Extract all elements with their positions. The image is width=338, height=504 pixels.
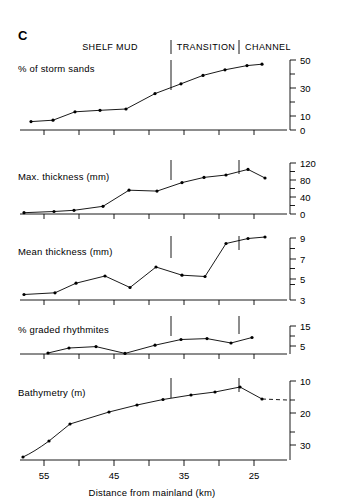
series-line-p5-dashed-tail	[262, 399, 287, 400]
y-tick-label: 10	[300, 111, 311, 122]
data-point	[263, 235, 266, 238]
data-point	[224, 173, 227, 176]
figure-letter: C	[18, 28, 28, 43]
y-tick-label: 40	[300, 192, 311, 203]
panel-bathymetry: Bathymetry (m) 10 20 30	[18, 376, 311, 467]
data-point	[245, 64, 248, 67]
data-point	[224, 242, 227, 245]
zone-header-channel: CHANNEL	[245, 42, 291, 52]
y-tick-label: 0	[300, 125, 305, 136]
figure-container: C SHELF MUD TRANSITION CHANNEL % of stor…	[0, 0, 338, 504]
data-point	[229, 341, 232, 344]
x-tick-label: 35	[179, 470, 190, 481]
data-point	[47, 439, 50, 442]
data-point	[154, 265, 157, 268]
data-point	[22, 211, 25, 214]
multi-panel-line-chart: C SHELF MUD TRANSITION CHANNEL % of stor…	[0, 0, 338, 504]
data-point	[201, 74, 204, 77]
panel-mean-thickness: Mean thickness (mm) 3 5 7 9	[18, 233, 305, 306]
y-tick-label: 5	[300, 274, 305, 285]
y-tick-label: 80	[300, 175, 311, 186]
data-point	[128, 286, 131, 289]
x-tick-label: 45	[109, 470, 120, 481]
data-point	[260, 63, 263, 66]
y-tick-label: 20	[300, 408, 311, 419]
panel-graded-rhythmites: % graded rhythmites 5 15	[18, 316, 311, 359]
data-point	[127, 189, 130, 192]
panel-max-thickness: Max. thickness (mm) 0 40 80 120	[18, 158, 316, 220]
zone-header-transition: TRANSITION	[177, 42, 236, 52]
series-line-p4	[48, 338, 252, 354]
data-point	[238, 385, 241, 388]
panel-label-mean-thickness: Mean thickness (mm)	[18, 246, 113, 257]
data-point	[46, 351, 49, 354]
data-point	[67, 346, 70, 349]
y-tick-label: 3	[300, 295, 305, 306]
data-point	[246, 168, 249, 171]
data-point	[68, 422, 71, 425]
data-point	[52, 210, 55, 213]
data-point	[189, 393, 192, 396]
panel-label-max-thickness: Max. thickness (mm)	[18, 171, 109, 182]
data-point	[155, 190, 158, 193]
data-point	[161, 398, 164, 401]
data-point	[153, 344, 156, 347]
data-point	[73, 110, 76, 113]
data-point	[22, 293, 25, 296]
y-tick-label: 9	[300, 233, 305, 244]
x-axis-title: Distance from mainland (km)	[89, 487, 216, 498]
panel-storm-sands: % of storm sands 0 10 30 50	[18, 55, 311, 136]
data-point	[98, 109, 101, 112]
y-tick-label: 10	[300, 376, 311, 387]
panel-label-graded-rhythmites: % graded rhythmites	[18, 324, 109, 335]
panel-label-storm-sands: % of storm sands	[18, 63, 95, 74]
y-tick-label: 120	[300, 158, 316, 169]
data-point	[179, 338, 182, 341]
data-point	[135, 403, 138, 406]
data-point	[124, 107, 127, 110]
data-point	[51, 119, 54, 122]
data-point	[107, 410, 110, 413]
data-point	[103, 274, 106, 277]
y-tick-label: 5	[300, 341, 305, 352]
y-tick-label: 50	[300, 55, 311, 66]
data-point	[202, 176, 205, 179]
data-point	[260, 397, 263, 400]
y-tick-label: 30	[300, 83, 311, 94]
data-point	[29, 120, 32, 123]
data-point	[213, 390, 216, 393]
series-markers-p4	[46, 336, 253, 355]
x-axis-labels: 55 45 35 25	[39, 470, 260, 481]
data-point	[223, 68, 226, 71]
data-point	[263, 176, 266, 179]
data-point	[101, 205, 104, 208]
zone-header-shelf-mud: SHELF MUD	[82, 42, 138, 52]
data-point	[180, 181, 183, 184]
data-point	[153, 92, 156, 95]
x-tick-label: 25	[249, 470, 260, 481]
y-tick-label: 0	[300, 209, 305, 220]
data-point	[94, 345, 97, 348]
data-point	[205, 337, 208, 340]
y-tick-label: 15	[300, 321, 311, 332]
x-tick-label: 55	[39, 470, 50, 481]
data-point	[246, 237, 249, 240]
data-point	[21, 455, 24, 458]
data-point	[250, 336, 253, 339]
y-tick-label: 30	[300, 440, 311, 451]
panel-label-bathymetry: Bathymetry (m)	[18, 387, 86, 398]
data-point	[74, 282, 77, 285]
data-point	[53, 291, 56, 294]
data-point	[180, 274, 183, 277]
series-markers-p3	[22, 235, 266, 296]
data-point	[123, 352, 126, 355]
y-tick-label: 7	[300, 254, 305, 265]
data-point	[203, 275, 206, 278]
data-point	[179, 82, 182, 85]
data-point	[72, 209, 75, 212]
